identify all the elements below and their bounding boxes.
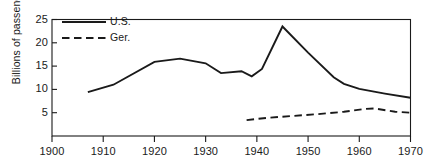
y-tick-label: 25 xyxy=(14,13,48,25)
y-tick-label: 15 xyxy=(14,59,48,71)
y-tick-marks xyxy=(52,20,57,113)
y-tick-label: 20 xyxy=(14,36,48,48)
x-tick-label: 1930 xyxy=(184,145,228,157)
x-tick-label: 1910 xyxy=(81,145,125,157)
plot-frame xyxy=(52,20,411,137)
y-tick-label: 10 xyxy=(14,82,48,94)
legend-lines-group xyxy=(62,22,106,38)
x-tick-label: 1940 xyxy=(235,145,279,157)
axes-frame xyxy=(52,20,411,137)
y-tick-label: 5 xyxy=(14,106,48,118)
x-tick-label: 1920 xyxy=(132,145,176,157)
x-tick-label: 1950 xyxy=(286,145,330,157)
x-tick-label: 1970 xyxy=(389,145,431,157)
legend-label: U.S. xyxy=(110,15,131,27)
x-tick-marks xyxy=(52,136,411,142)
series-line-u-s xyxy=(88,26,411,97)
legend-label: Ger. xyxy=(110,31,130,43)
series-line-ger xyxy=(247,109,411,121)
x-tick-label: 1960 xyxy=(337,145,381,157)
data-series-group xyxy=(88,26,411,120)
x-tick-label: 1900 xyxy=(30,145,74,157)
chart-figure: Billions of passengers 510152025 1900191… xyxy=(0,0,431,164)
chart-canvas xyxy=(0,0,431,164)
